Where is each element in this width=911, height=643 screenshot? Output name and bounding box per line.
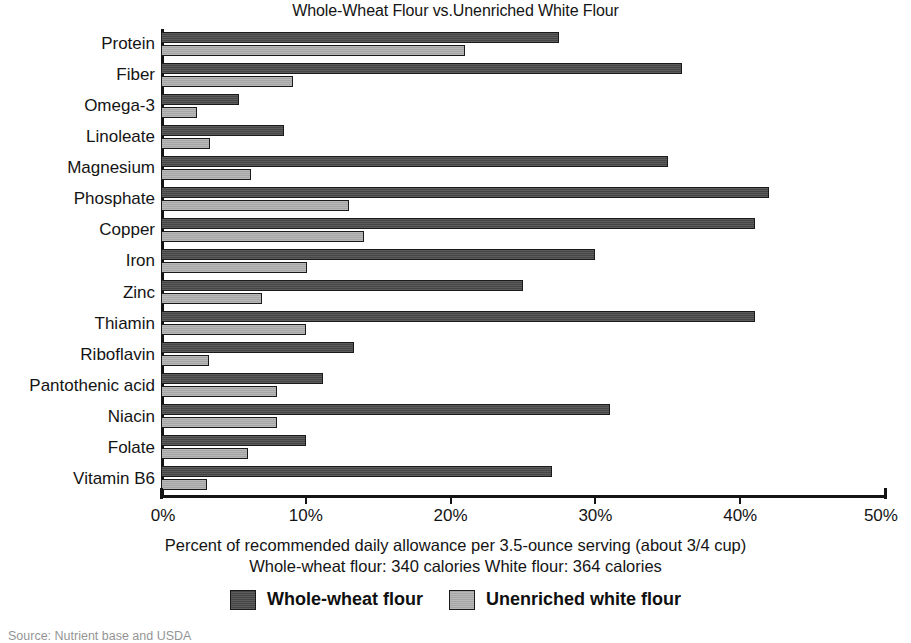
bar-white-flour (161, 138, 210, 149)
x-axis-tick (305, 495, 307, 504)
legend-swatch-icon (230, 590, 256, 610)
bar-white-flour (161, 231, 364, 242)
bar-whole-wheat (161, 249, 595, 260)
category-label: Magnesium (0, 158, 155, 178)
bar-white-flour (161, 417, 277, 428)
bar-whole-wheat (161, 373, 323, 384)
x-axis-tick (884, 488, 887, 499)
bar-whole-wheat (161, 187, 769, 198)
bar-group (161, 29, 885, 60)
source-note: Source: Nutrient base and USDA (8, 629, 191, 643)
bar-group (161, 91, 885, 122)
bar-group (161, 433, 885, 464)
legend-label: Whole-wheat flour (267, 589, 423, 610)
page-title: Whole-Wheat Flour vs.Unenriched White Fl… (0, 1, 911, 21)
legend-item: Unenriched white flour (449, 589, 681, 610)
bar-white-flour (161, 324, 306, 335)
legend-swatch-icon (449, 590, 475, 610)
category-axis-labels: ProteinFiberOmega-3LinoleateMagnesiumPho… (0, 29, 155, 495)
category-label: Iron (0, 251, 155, 271)
x-axis-line (161, 495, 887, 498)
axis-caption-line-1: Percent of recommended daily allowance p… (0, 535, 911, 556)
bar-whole-wheat (161, 156, 668, 167)
bar-whole-wheat (161, 342, 354, 353)
x-axis-tick-label: 30% (578, 506, 612, 526)
category-label: Linoleate (0, 127, 155, 147)
bar-white-flour (161, 293, 262, 304)
bar-whole-wheat (161, 311, 755, 322)
bar-white-flour (161, 448, 248, 459)
bar-whole-wheat (161, 63, 682, 74)
bar-group (161, 402, 885, 433)
category-label: Riboflavin (0, 345, 155, 365)
bar-group (161, 371, 885, 402)
category-label: Copper (0, 220, 155, 240)
bar-whole-wheat (161, 404, 610, 415)
category-label: Pantothenic acid (0, 376, 155, 396)
category-label: Folate (0, 438, 155, 458)
axis-caption-line-2: Whole-wheat flour: 340 calories White fl… (0, 556, 911, 577)
bar-white-flour (161, 200, 349, 211)
bar-white-flour (161, 262, 307, 273)
bar-group (161, 464, 885, 495)
bar-white-flour (161, 479, 207, 490)
bar-group (161, 246, 885, 277)
bar-whole-wheat (161, 435, 306, 446)
bar-group (161, 122, 885, 153)
plot-area (161, 29, 885, 495)
category-label: Niacin (0, 407, 155, 427)
category-label: Thiamin (0, 314, 155, 334)
bar-whole-wheat (161, 94, 239, 105)
bar-group (161, 278, 885, 309)
category-label: Vitamin B6 (0, 469, 155, 489)
category-label: Protein (0, 34, 155, 54)
bar-whole-wheat (161, 280, 523, 291)
bar-white-flour (161, 45, 465, 56)
bar-group (161, 184, 885, 215)
category-label: Omega-3 (0, 96, 155, 116)
x-axis-tick-label: 40% (723, 506, 757, 526)
category-label: Fiber (0, 65, 155, 85)
chart-legend: Whole-wheat flourUnenriched white flour (0, 589, 911, 610)
bar-group (161, 60, 885, 91)
x-axis-tick (594, 495, 596, 504)
bar-group (161, 309, 885, 340)
bar-white-flour (161, 107, 197, 118)
legend-item: Whole-wheat flour (230, 589, 423, 610)
bar-whole-wheat (161, 32, 559, 43)
bar-white-flour (161, 386, 277, 397)
legend-label: Unenriched white flour (486, 589, 681, 610)
x-axis-tick (160, 488, 163, 499)
x-axis-tick-label: 20% (434, 506, 468, 526)
x-axis-tick-label: 10% (289, 506, 323, 526)
x-axis-tick (450, 495, 452, 504)
chart-page: Whole-Wheat Flour vs.Unenriched White Fl… (0, 0, 911, 643)
category-label: Zinc (0, 283, 155, 303)
bar-group (161, 340, 885, 371)
bar-group (161, 215, 885, 246)
category-label: Phosphate (0, 189, 155, 209)
x-axis-tick-label: 0% (151, 506, 176, 526)
bar-white-flour (161, 76, 293, 87)
bar-white-flour (161, 169, 251, 180)
x-axis-tick-label: 50% (864, 506, 898, 526)
bar-whole-wheat (161, 125, 284, 136)
bar-white-flour (161, 355, 209, 366)
bar-whole-wheat (161, 466, 552, 477)
bar-whole-wheat (161, 218, 755, 229)
bar-group (161, 153, 885, 184)
x-axis-tick (739, 495, 741, 504)
